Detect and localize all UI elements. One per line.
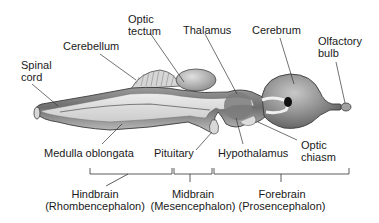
label-cerebrum: Cerebrum (252, 24, 301, 36)
label-spinal-line1: Spinal (21, 59, 52, 71)
optic-tectum-shape (176, 69, 216, 91)
label-optic-chiasm: Optic chiasm (301, 139, 336, 163)
label-chiasm-line2: chiasm (301, 151, 336, 163)
pituitary-shape (209, 120, 218, 134)
olfactory-bulb-shape (341, 103, 351, 111)
division-hindbrain-name: Hindbrain (40, 188, 150, 200)
label-olfactory-bulb: Olfactory bulb (318, 35, 362, 59)
label-pituitary: Pituitary (154, 147, 194, 159)
spinal-cord-opening (34, 107, 40, 119)
label-chiasm-line1: Optic (301, 139, 336, 151)
label-thalamus: Thalamus (183, 24, 231, 36)
label-olfactory-line2: bulb (318, 47, 362, 59)
division-hindbrain: Hindbrain (Rhombencephalon) (40, 188, 150, 212)
division-forebrain-name: Forebrain (232, 188, 332, 200)
label-medulla-oblongata: Medulla oblongata (44, 147, 134, 159)
label-cerebellum: Cerebellum (63, 40, 119, 52)
division-hindbrain-latin: (Rhombencephalon) (40, 200, 150, 212)
cerebellum-shape (131, 70, 180, 89)
division-forebrain-latin: (Prosencephalon) (232, 200, 332, 212)
cerebrum-shape (262, 74, 342, 128)
division-brackets (90, 168, 349, 186)
ventricle-opening (284, 97, 292, 107)
label-tectum-line2: tectum (128, 25, 161, 37)
division-midbrain-name: Midbrain (146, 188, 240, 200)
division-midbrain-latin: (Mesencephalon) (146, 200, 240, 212)
division-forebrain: Forebrain (Prosencephalon) (232, 188, 332, 212)
label-olfactory-line1: Olfactory (318, 35, 362, 47)
label-spinal-cord: Spinal cord (21, 59, 52, 83)
label-spinal-line2: cord (21, 71, 52, 83)
label-optic-tectum: Optic tectum (128, 13, 161, 37)
label-tectum-line1: Optic (128, 13, 161, 25)
brain-diagram: Spinal cord Cerebellum Optic tectum Thal… (0, 0, 379, 223)
label-hypothalamus: Hypothalamus (218, 147, 288, 159)
division-midbrain: Midbrain (Mesencephalon) (146, 188, 240, 212)
thalamus-shape (224, 92, 252, 120)
